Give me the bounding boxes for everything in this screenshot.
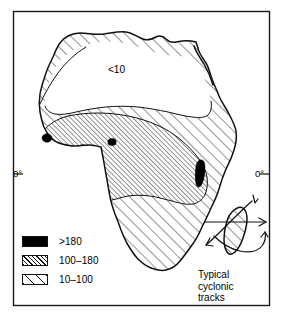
legend-swatch-solid-black <box>22 236 48 247</box>
blob-high-guinea-highlands <box>42 134 52 142</box>
caption-line-3: tracks <box>198 292 234 304</box>
legend-item-high: >180 <box>22 232 140 251</box>
caption-line-2: cyclonic <box>198 281 234 293</box>
blob-high-nigeria-coast <box>108 138 116 145</box>
legend-label-mid: 100–180 <box>59 256 99 266</box>
figure-thematic-map: <10 0° 0° >180 100–180 10–100 Typical cy… <box>0 0 284 321</box>
caption-line-1: Typical <box>198 269 234 281</box>
legend-label-high: >180 <box>59 237 82 247</box>
legend-swatch-dense-hatch <box>22 255 48 266</box>
legend-item-low: 10–100 <box>22 270 140 289</box>
label-equator-left: 0° <box>13 168 22 179</box>
label-equator-right: 0° <box>255 168 264 179</box>
legend-swatch-sparse-hatch <box>22 274 48 285</box>
cyclonic-tracks-caption: Typical cyclonic tracks <box>198 269 234 304</box>
legend-label-low: 10–100 <box>59 275 93 285</box>
map-legend: >180 100–180 10–100 <box>22 232 140 289</box>
legend-item-mid: 100–180 <box>22 251 140 270</box>
label-under-10: <10 <box>108 64 125 75</box>
